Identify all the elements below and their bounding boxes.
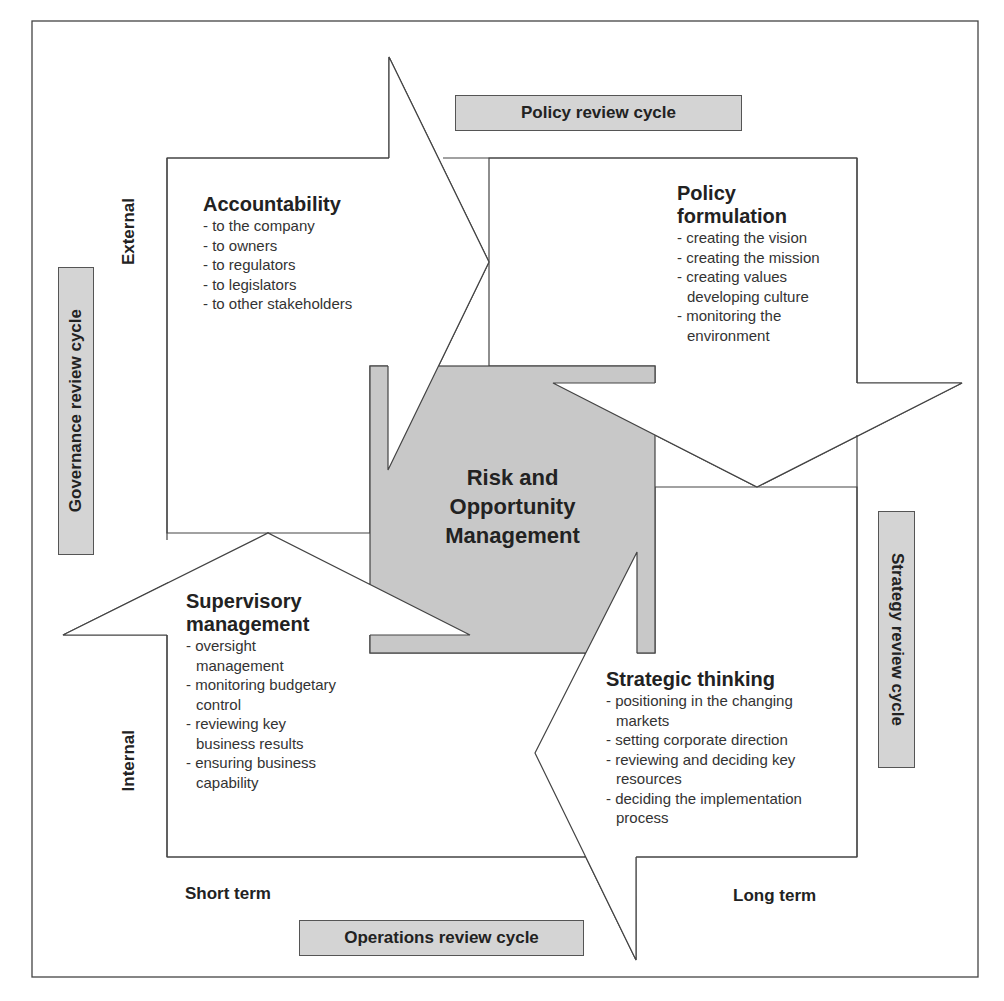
governance-review-cycle-text: Governance review cycle: [66, 309, 86, 512]
list-item: to legislators: [203, 275, 352, 295]
supervisory-management-list: oversight management monitoring budgetar…: [186, 636, 341, 792]
supervisory-management-block: Supervisory management oversight managem…: [186, 590, 346, 792]
accountability-title: Accountability: [203, 193, 352, 216]
title-line: management: [186, 613, 346, 636]
list-item: to regulators: [203, 255, 352, 275]
accountability-block: Accountability to the company to owners …: [203, 193, 352, 314]
list-item: setting corporate direction: [606, 730, 838, 750]
list-item: monitoring the environment: [677, 306, 845, 345]
center-line-1: Risk and: [370, 463, 655, 492]
policy-review-cycle-label: Policy review cycle: [455, 95, 742, 131]
center-line-2: Opportunity: [370, 492, 655, 521]
list-item: to other stakeholders: [203, 294, 352, 314]
title-line: Policy: [677, 182, 857, 205]
list-item: positioning in the changing markets: [606, 691, 838, 730]
long-term-label: Long term: [733, 886, 816, 906]
short-term-label: Short term: [185, 884, 271, 904]
policy-formulation-block: Policy formulation creating the vision c…: [677, 182, 857, 345]
center-label: Risk and Opportunity Management: [370, 463, 655, 550]
strategy-review-cycle-text: Strategy review cycle: [887, 553, 907, 726]
strategy-review-cycle-label: Strategy review cycle: [878, 511, 915, 768]
policy-formulation-title: Policy formulation: [677, 182, 857, 228]
list-item: monitoring budgetary control: [186, 675, 341, 714]
list-item: creating values developing culture: [677, 267, 845, 306]
policy-formulation-list: creating the vision creating the mission…: [677, 228, 845, 345]
list-item: reviewing and deciding key resources: [606, 750, 838, 789]
internal-label: Internal: [119, 730, 139, 791]
operations-review-cycle-label: Operations review cycle: [299, 920, 584, 956]
list-item: to owners: [203, 236, 352, 256]
accountability-list: to the company to owners to regulators t…: [203, 216, 352, 314]
supervisory-management-title: Supervisory management: [186, 590, 346, 636]
strategic-thinking-block: Strategic thinking positioning in the ch…: [606, 668, 841, 828]
list-item: deciding the implementation process: [606, 789, 838, 828]
list-item: reviewing key business results: [186, 714, 341, 753]
list-item: to the company: [203, 216, 352, 236]
list-item: creating the mission: [677, 248, 845, 268]
strategic-thinking-list: positioning in the changing markets sett…: [606, 691, 838, 828]
strategic-thinking-title: Strategic thinking: [606, 668, 841, 691]
list-item: oversight management: [186, 636, 341, 675]
external-label: External: [119, 198, 139, 265]
title-line: Supervisory: [186, 590, 346, 613]
list-item: creating the vision: [677, 228, 845, 248]
governance-review-cycle-label: Governance review cycle: [58, 267, 94, 555]
center-line-3: Management: [370, 521, 655, 550]
list-item: ensuring business capability: [186, 753, 341, 792]
title-line: formulation: [677, 205, 857, 228]
